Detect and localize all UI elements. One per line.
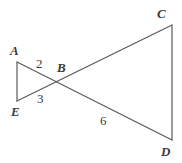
vertex-label-d: D	[161, 145, 170, 158]
vertex-label-b: B	[57, 61, 66, 74]
vertex-label-a: A	[10, 44, 19, 57]
vertex-label-e: E	[11, 105, 20, 118]
angle-label-3: 3	[37, 92, 44, 105]
geometry-figure: A E B C D 2 3 6	[0, 0, 182, 163]
angle-label-2: 2	[36, 57, 43, 70]
figure-canvas	[0, 0, 182, 163]
segment-layer	[17, 25, 172, 140]
angle-label-6: 6	[100, 114, 107, 127]
vertex-label-c: C	[157, 7, 166, 20]
